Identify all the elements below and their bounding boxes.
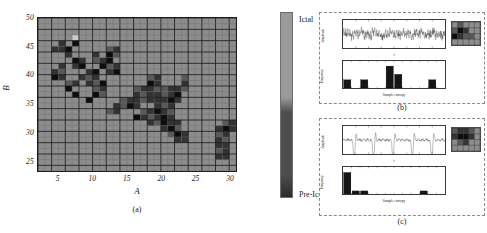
y-axis-ticks-panel-a: 253035404550	[0, 17, 34, 172]
x-tick-20: 20	[157, 174, 165, 183]
y-tick-45: 45	[26, 41, 34, 50]
x-tick-10: 10	[88, 174, 96, 183]
panel-c-histogram-ylabel: Frequency	[320, 175, 324, 188]
panel-b: Amplitude t Frequency Sample entropy	[319, 12, 485, 104]
y-tick-25: 25	[26, 156, 34, 165]
panel-c-histogram-axes	[342, 166, 446, 195]
x-tick-30: 30	[226, 174, 234, 183]
caption-panel-a: (a)	[133, 205, 142, 214]
y-tick-50: 50	[26, 13, 34, 22]
panel-b-histogram-xlabel: Sample entropy	[383, 93, 406, 97]
panel-b-inset-grid	[451, 21, 481, 46]
y-axis-label-panel-a: B	[1, 85, 11, 91]
panel-c-timeseries-axes	[342, 125, 446, 155]
panel-c-histogram-xlabel: Sample entropy	[383, 199, 406, 203]
panel-c-inset-grid	[451, 127, 481, 152]
heatmap-canvas	[38, 18, 236, 171]
x-tick-25: 25	[192, 174, 200, 183]
panel-c-inset-cells	[452, 128, 480, 151]
colorbar-gradient	[280, 12, 293, 198]
panel-b-histogram-axes	[342, 60, 446, 89]
panel-c-timeseries-curve	[343, 126, 445, 154]
panel-c-timeseries-ylabel: Amplitude	[321, 135, 325, 149]
heatmap-plot-area	[37, 17, 237, 172]
panel-b-histogram-ylabel: Frequency	[320, 69, 324, 82]
panel-b-timeseries-curve	[343, 20, 445, 48]
caption-panel-b: (b)	[397, 103, 406, 112]
figure-root: 253035404550 51015202530 B A (a) Ictal P…	[0, 0, 487, 233]
y-tick-30: 30	[26, 127, 34, 136]
x-axis-label-panel-a: A	[134, 186, 140, 196]
y-tick-40: 40	[26, 70, 34, 79]
panel-b-timeseries-axes	[342, 19, 446, 49]
panel-b-histogram-bars	[343, 61, 445, 88]
x-tick-5: 5	[56, 174, 60, 183]
colorbar-top-label: Ictal	[299, 15, 313, 24]
panel-b-inset-cells	[452, 22, 480, 45]
panel-c-histogram-bars	[343, 167, 445, 194]
panel-b-timeseries-ylabel: Amplitude	[321, 29, 325, 43]
caption-panel-c: (c)	[398, 217, 407, 226]
y-tick-35: 35	[26, 99, 34, 108]
x-tick-15: 15	[123, 174, 131, 183]
panel-c-timeseries-xlabel: t	[394, 159, 395, 163]
panel-b-timeseries-xlabel: t	[394, 53, 395, 57]
x-axis-ticks-panel-a: 51015202530	[37, 174, 237, 186]
panel-a: 253035404550 51015202530 B A (a)	[0, 0, 258, 233]
panel-c: Amplitude t Frequency Sample entropy	[319, 118, 485, 216]
